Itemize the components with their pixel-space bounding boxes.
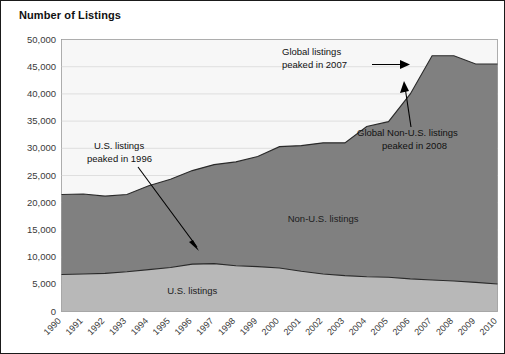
x-tick-label: 2001: [281, 316, 302, 337]
y-tick-label: 50,000: [27, 34, 56, 45]
annotation-global-peak-line2: peaked in 2007: [282, 59, 347, 70]
annotation-global-nonus-peak-line1: Global Non-U.S. listings: [357, 127, 458, 138]
annotation-global-nonus-peak-line2: peaked in 2008: [382, 140, 447, 151]
x-tick-label: 1992: [85, 316, 106, 337]
y-tick-label: 25,000: [27, 170, 56, 181]
annotation-us-peak-line2: peaked in 1996: [87, 153, 152, 164]
x-tick-label: 1995: [151, 316, 172, 337]
chart-figure: Number of Listings 50,000 45,000: [0, 0, 505, 354]
x-axis-labels: 1990199119921993199419951996199719981999…: [42, 316, 499, 337]
x-tick-label: 1999: [238, 316, 259, 337]
y-tick-label: 35,000: [27, 115, 56, 126]
y-tick-label: 0: [51, 306, 56, 317]
annotation-global-peak-line1: Global listings: [282, 46, 341, 57]
y-tick-label: 40,000: [27, 88, 56, 99]
series-label-us-listings: U.S. listings: [167, 285, 217, 296]
annotation-us-peak-line1: U.S. listings: [94, 140, 144, 151]
x-tick-label: 1996: [172, 316, 193, 337]
x-tick-label: 2004: [347, 316, 368, 337]
y-tick-label: 20,000: [27, 197, 56, 208]
x-tick-label: 1991: [63, 316, 84, 337]
x-tick-label: 2003: [325, 316, 346, 337]
x-tick-label: 1994: [129, 316, 150, 337]
y-tick-label: 30,000: [27, 142, 56, 153]
x-tick-label: 2009: [456, 316, 477, 337]
x-tick-label: 2006: [390, 316, 411, 337]
x-tick-label: 2002: [303, 316, 324, 337]
x-tick-label: 2000: [260, 316, 281, 337]
x-tick-label: 1997: [194, 316, 215, 337]
y-tick-label: 5,000: [32, 278, 56, 289]
x-tick-label: 2007: [412, 316, 433, 337]
x-tick-label: 2008: [434, 316, 455, 337]
x-tick-label: 1993: [107, 316, 128, 337]
area-chart: 50,000 45,000 40,000 35,000 30,000 25,00…: [1, 1, 505, 354]
y-tick-label: 10,000: [27, 251, 56, 262]
x-tick-label: 2010: [478, 316, 499, 337]
y-axis-labels: 50,000 45,000 40,000 35,000 30,000 25,00…: [27, 34, 56, 317]
series-label-non-us-listings: Non-U.S. listings: [288, 213, 359, 224]
y-tick-label: 15,000: [27, 224, 56, 235]
x-tick-label: 2005: [369, 316, 390, 337]
x-tick-label: 1998: [216, 316, 237, 337]
x-tick-label: 1990: [42, 316, 63, 337]
y-tick-label: 45,000: [27, 61, 56, 72]
